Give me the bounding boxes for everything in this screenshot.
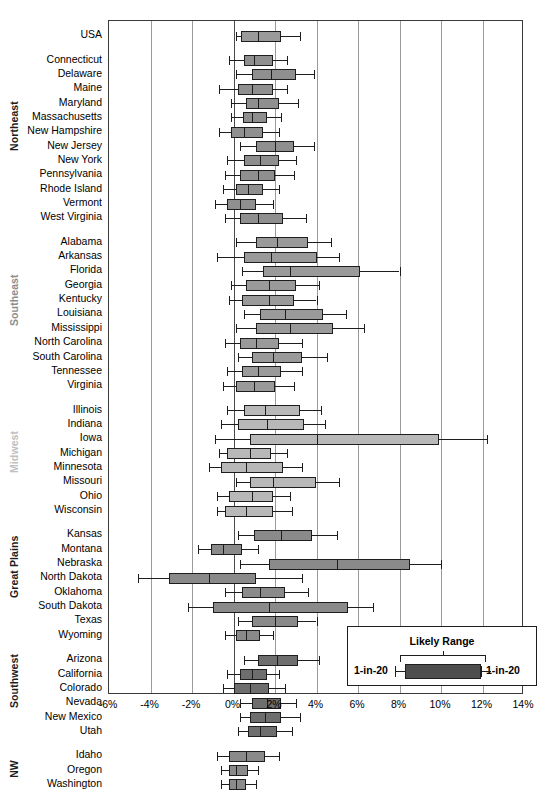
whisker-cap-high (290, 492, 291, 501)
region-label: Midwest (8, 445, 20, 473)
boxplot-row (109, 280, 524, 291)
median-line (290, 323, 291, 334)
x-tick-label: 12% (471, 698, 492, 710)
whisker-cap-high (273, 631, 274, 640)
legend-box (405, 664, 481, 679)
boxplot-row (109, 779, 524, 790)
row-label: Indiana (68, 418, 102, 429)
whisker-cap-high (302, 463, 303, 472)
median-line (254, 55, 255, 66)
box (213, 602, 348, 613)
legend: Likely Range 1-in-20 1-in-20 (347, 626, 537, 686)
row-label: Georgia (65, 279, 102, 290)
row-label: Washington (47, 778, 102, 789)
row-label: Minnesota (54, 461, 102, 472)
box (229, 779, 246, 790)
row-label: Wyoming (58, 629, 102, 640)
whisker-cap-high (294, 382, 295, 391)
boxplot-row (109, 381, 524, 392)
whisker-cap-high (319, 281, 320, 290)
row-label: Ohio (80, 490, 102, 501)
boxplot-row (109, 112, 524, 123)
boxplot-row (109, 602, 524, 613)
row-label: Colorado (59, 682, 102, 693)
median-line (252, 112, 253, 123)
boxplot-row (109, 559, 524, 570)
boxplot-row (109, 434, 524, 445)
box (227, 448, 271, 459)
row-label: Nevada (66, 696, 102, 707)
boxplot-row (109, 506, 524, 517)
median-line (240, 199, 241, 210)
median-line (269, 602, 270, 613)
whisker-cap-low (217, 752, 218, 761)
row-label: Texas (75, 614, 102, 625)
legend-cap-left (395, 666, 396, 677)
whisker-cap-low (227, 156, 228, 165)
whisker-cap-low (225, 631, 226, 640)
whisker-cap-low (215, 200, 216, 209)
row-label: USA (80, 29, 102, 40)
whisker-cap-low (227, 367, 228, 376)
x-tick-label: 2% (266, 698, 281, 710)
whisker-cap-low (242, 267, 243, 276)
boxplot-row (109, 491, 524, 502)
whisker-cap-high (300, 32, 301, 41)
whisker-cap-high (256, 780, 257, 789)
boxplot-row (109, 765, 524, 776)
row-label: Maryland (59, 97, 102, 108)
whisker-cap-high (441, 560, 442, 569)
whisker-cap-low (240, 560, 241, 569)
box (256, 323, 333, 334)
whisker-cap-high (279, 185, 280, 194)
row-label: Oklahoma (54, 586, 102, 597)
whisker-cap-low (236, 70, 237, 79)
row-label: Kentucky (59, 293, 102, 304)
boxplot-row (109, 462, 524, 473)
row-label: Idaho (76, 749, 102, 760)
boxplot-row (109, 141, 524, 152)
row-label: Utah (80, 725, 102, 736)
region-label: Great Plains (8, 570, 20, 598)
whisker-cap-high (294, 171, 295, 180)
whisker-cap-high (279, 752, 280, 761)
median-line (254, 381, 255, 392)
whisker-cap-high (337, 531, 338, 540)
boxplot-row (109, 352, 524, 363)
row-label: South Dakota (38, 600, 102, 611)
whisker-cap-low (215, 435, 216, 444)
x-tick-label: -4% (140, 698, 159, 710)
boxplot-row (109, 55, 524, 66)
row-label: North Dakota (40, 571, 102, 582)
box (243, 112, 267, 123)
x-tick-label: 10% (429, 698, 450, 710)
median-line (290, 266, 291, 277)
whisker-cap-low (238, 617, 239, 626)
whisker-cap-low (229, 296, 230, 305)
median-line (281, 530, 282, 541)
median-line (317, 434, 318, 445)
median-line (337, 559, 338, 570)
box (252, 69, 296, 80)
whisker-cap-low (223, 684, 224, 693)
median-line (258, 31, 259, 42)
box (242, 587, 286, 598)
median-line (246, 506, 247, 517)
box (244, 405, 300, 416)
boxplot-row (109, 309, 524, 320)
median-line (252, 669, 253, 680)
box (229, 765, 248, 776)
whisker-cap-high (296, 699, 297, 708)
box (248, 726, 277, 737)
legend-cap-right (481, 666, 482, 677)
whisker-cap-low (225, 339, 226, 348)
box (244, 55, 273, 66)
boxplot-row (109, 69, 524, 80)
boxplot-row (109, 213, 524, 224)
boxplot-row (109, 170, 524, 181)
box (246, 280, 296, 291)
row-label: Illinois (73, 404, 102, 415)
box (231, 127, 262, 138)
median-line (265, 405, 266, 416)
whisker-cap-low (244, 656, 245, 665)
